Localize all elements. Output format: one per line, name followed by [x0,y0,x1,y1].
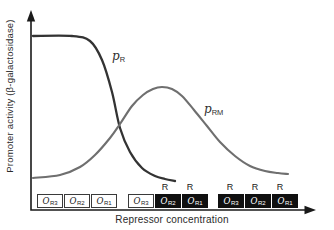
operator-symbol: O [133,197,140,206]
operator-symbol: O [160,197,167,206]
operator-box-row: OR3OR2OR1 [128,194,208,208]
repressor-label: R [178,182,202,193]
operator-group-1: OR3OR2OR1 [37,182,117,208]
repressor-label: R [153,182,177,193]
operator-symbol: O [187,197,194,206]
operator-group-3: RRROR3OR2OR1 [218,182,298,208]
x-axis-label: Repressor concentration [115,214,229,225]
operator-box-row: OR3OR2OR1 [37,194,117,208]
operator-box-r1-free: OR1 [91,194,117,208]
operator-subscript: R3 [231,199,239,208]
operator-group-2: RROR3OR2OR1 [128,182,208,208]
operator-subscript: R2 [258,199,266,208]
pr-curve-label-sub: R [120,55,125,64]
operator-box-r3-free: OR3 [37,194,63,208]
operator-subscript: R2 [168,199,176,208]
y-axis-arrow-icon [27,10,35,22]
prm-curve-label-main: p [204,102,212,116]
prm-curve-label: pRM [204,103,223,119]
repressor-row [37,182,117,193]
curves-layer [33,36,288,181]
operator-subscript: R3 [141,199,149,208]
operator-box-r1-bound: OR1 [182,194,208,208]
operator-box-r2-free: OR2 [64,194,90,208]
operator-box-r1-bound: OR1 [272,194,298,208]
operator-box-r3-bound: OR3 [218,194,244,208]
x-axis-arrow-icon [305,206,317,214]
pRM-curve [33,87,288,178]
operator-symbol: O [69,197,76,206]
repressor-label-empty [62,182,86,193]
pr-curve-label: pR [112,50,125,66]
operator-box-r3-free: OR3 [128,194,154,208]
y-axis-label: Promoter activity (β-galactosidase) [4,19,15,172]
prm-curve-label-sub: RM [212,108,224,117]
operator-subscript: R3 [50,199,58,208]
promoter-activity-figure: Promoter activity (β-galactosidase) Repr… [0,0,334,230]
repressor-row: RRR [218,182,298,193]
pR-curve [33,36,175,181]
operator-subscript: R2 [77,199,85,208]
operator-symbol: O [250,197,257,206]
operator-box-r2-bound: OR2 [155,194,181,208]
operator-box-row: OR3OR2OR1 [218,194,298,208]
repressor-label: R [243,182,267,193]
operator-symbol: O [96,197,103,206]
repressor-row: RR [128,182,208,193]
operator-subscript: R1 [285,199,293,208]
operator-symbol: O [277,197,284,206]
operator-symbol: O [223,197,230,206]
operator-box-r2-bound: OR2 [245,194,271,208]
operator-subscript: R1 [195,199,203,208]
repressor-label-empty [128,182,152,193]
repressor-label: R [268,182,292,193]
repressor-label-empty [37,182,61,193]
operator-symbol: O [42,197,49,206]
repressor-label-empty [87,182,111,193]
pr-curve-label-main: p [112,49,120,63]
operator-subscript: R1 [104,199,112,208]
repressor-label: R [218,182,242,193]
